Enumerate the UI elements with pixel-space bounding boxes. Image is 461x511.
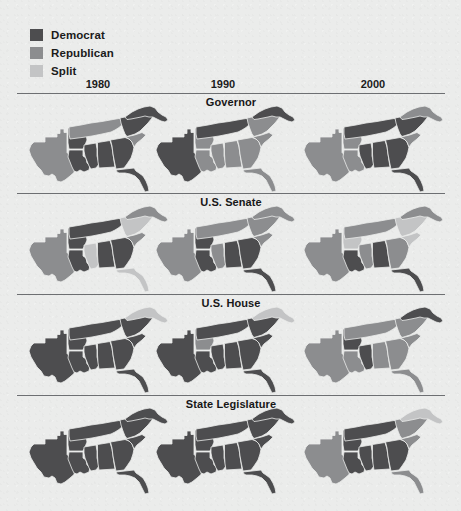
- state-tn: Tennessee — republican: [69, 119, 125, 140]
- figure-canvas: DemocratRepublicanSplit 198019902000 Gov…: [0, 0, 461, 511]
- row-divider: [17, 193, 445, 194]
- map-u-s-senate-2000: Texas — republicanArkansas — splitLouisi…: [302, 206, 445, 292]
- state-fl: Florida — democrat: [116, 470, 149, 494]
- year-label-2000: 2000: [343, 77, 403, 91]
- legend-label-democrat: Democrat: [51, 29, 105, 41]
- state-fl: Florida — democrat: [116, 369, 149, 393]
- southern-states-map: Texas — democratArkansas — republicanLou…: [154, 106, 297, 192]
- map-state-legislature-1990: Texas — democratArkansas — democratLouis…: [154, 408, 297, 494]
- year-label-1980: 1980: [68, 77, 128, 91]
- southern-states-map: Texas — republicanArkansas — republicanL…: [302, 106, 445, 192]
- southern-states-map: Texas — republicanArkansas — democratLou…: [302, 307, 445, 393]
- state-tn: Tennessee — democrat: [69, 219, 125, 240]
- southern-states-map: Texas — democratArkansas — democratLouis…: [27, 307, 170, 393]
- legend-label-split: Split: [51, 65, 76, 77]
- map-governor-1990: Texas — democratArkansas — republicanLou…: [154, 106, 297, 192]
- southern-states-map: Texas — democratArkansas — republicanLou…: [154, 307, 297, 393]
- row-divider: [17, 395, 445, 396]
- southern-states-map: Texas — republicanArkansas — democratLou…: [27, 206, 170, 292]
- southern-states-map: Texas — democratArkansas — democratLouis…: [27, 408, 170, 494]
- row-divider: [17, 294, 445, 295]
- state-fl: Florida — democrat: [243, 369, 276, 393]
- state-tn: Tennessee — democrat: [344, 119, 400, 140]
- legend-item-republican: Republican: [30, 44, 180, 61]
- state-fl: Florida — republican: [391, 369, 424, 393]
- map-row-state-legislature: State LegislatureTexas — democratArkansa…: [17, 395, 445, 495]
- map-u-s-senate-1980: Texas — republicanArkansas — democratLou…: [27, 206, 170, 292]
- state-fl: Florida — democrat: [391, 168, 424, 192]
- southern-states-map: Texas — republicanArkansas — splitLouisi…: [302, 206, 445, 292]
- map-governor-2000: Texas — republicanArkansas — republicanL…: [302, 106, 445, 192]
- southern-states-map: Texas — republicanArkansas — democratLou…: [302, 408, 445, 494]
- state-tn: Tennessee — democrat: [344, 421, 400, 442]
- state-tn: Tennessee — democrat: [69, 421, 125, 442]
- state-tn: Tennessee — democrat: [196, 119, 252, 140]
- southern-states-map: Texas — republicanArkansas — democratLou…: [154, 206, 297, 292]
- state-tn: Tennessee — democrat: [196, 320, 252, 341]
- state-fl: Florida — republican: [243, 168, 276, 192]
- state-tn: Tennessee — republican: [344, 219, 400, 240]
- legend-swatch-split: [30, 65, 43, 77]
- state-tn: Tennessee — republican: [196, 219, 252, 240]
- map-state-legislature-1980: Texas — democratArkansas — democratLouis…: [27, 408, 170, 494]
- map-u-s-house-2000: Texas — republicanArkansas — democratLou…: [302, 307, 445, 393]
- southern-states-map: Texas — republicanArkansas — democratLou…: [27, 106, 170, 192]
- state-fl: Florida — democrat: [243, 268, 276, 292]
- map-governor-1980: Texas — republicanArkansas — democratLou…: [27, 106, 170, 192]
- state-fl: Florida — democrat: [116, 168, 149, 192]
- year-label-1990: 1990: [193, 77, 253, 91]
- legend-item-democrat: Democrat: [30, 26, 180, 43]
- row-divider: [17, 93, 445, 94]
- state-tn: Tennessee — democrat: [69, 320, 125, 341]
- map-u-s-house-1990: Texas — democratArkansas — republicanLou…: [154, 307, 297, 393]
- map-u-s-house-1980: Texas — democratArkansas — democratLouis…: [27, 307, 170, 393]
- map-row-u-s-house: U.S. HouseTexas — democratArkansas — dem…: [17, 294, 445, 394]
- southern-states-map: Texas — democratArkansas — democratLouis…: [154, 408, 297, 494]
- state-fl: Florida — republican: [391, 470, 424, 494]
- legend-label-republican: Republican: [51, 47, 114, 59]
- figure-plot-area: DemocratRepublicanSplit 198019902000 Gov…: [17, 9, 445, 502]
- legend: DemocratRepublicanSplit: [30, 26, 180, 80]
- state-fl: Florida — democrat: [391, 268, 424, 292]
- state-tn: Tennessee — republican: [344, 320, 400, 341]
- legend-swatch-republican: [30, 47, 43, 59]
- legend-swatch-democrat: [30, 29, 43, 41]
- map-row-governor: GovernorTexas — republicanArkansas — dem…: [17, 93, 445, 193]
- map-state-legislature-2000: Texas — republicanArkansas — democratLou…: [302, 408, 445, 494]
- map-u-s-senate-1990: Texas — republicanArkansas — democratLou…: [154, 206, 297, 292]
- map-row-u-s-senate: U.S. SenateTexas — republicanArkansas — …: [17, 193, 445, 293]
- state-fl: Florida — democrat: [243, 470, 276, 494]
- state-tn: Tennessee — democrat: [196, 421, 252, 442]
- year-axis-header: 198019902000: [17, 77, 445, 93]
- state-fl: Florida — split: [116, 268, 149, 292]
